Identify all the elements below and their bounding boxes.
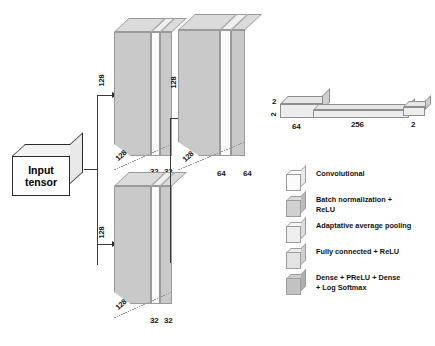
block-bottom-channels-label: 128 [97,227,106,239]
legend: Convolutional Batch normalization + ReLU… [286,168,434,298]
legend-swatch-side [301,191,306,213]
block-top-channels-label: 128 [97,75,106,87]
block-merged-back-face [178,30,220,156]
input-tensor-label: Input tensor [12,156,70,196]
block-bottom-back-face [114,186,151,304]
fc-64-width-label: 64 [292,122,301,131]
legend-label-convolutional: Convolutional [316,169,434,179]
legend-swatch-front [286,174,301,191]
fc-64-height-label: 2 [272,97,276,106]
block-merged-spatial-w-label: 64 [217,169,226,178]
input-tensor-box: Input tensor [12,144,84,196]
block-bottom-spatial-w-label: 32 [150,316,159,325]
diagram-canvas: Input tensor 128 128 32 32 [0,0,435,346]
block-merged-white-sheet [220,30,231,156]
fc-256-front-face [313,110,409,118]
legend-item-batchnorm: Batch normalization + ReLU [286,194,434,220]
legend-swatch-side [301,217,306,239]
fc-64-side-label: 2 [269,113,278,117]
wire-merge-from-bottom [170,262,171,263]
legend-swatch-batchnorm-icon [286,196,306,217]
fc-256-width-label: 256 [351,120,364,129]
legend-swatch-front [286,200,301,217]
wire-split-vertical [97,95,98,265]
wire-input-trunk [84,169,98,170]
block-bottom-spatial-h-label: 32 [164,316,173,325]
legend-swatch-front [286,252,301,269]
legend-item-dense-logsoftmax: Dense + PReLU + Dense + Log Softmax [286,272,434,298]
legend-swatch-adaptive-avg-pool-icon [286,222,306,243]
fc-2-front-face [403,107,425,116]
block-bottom-white-sheet [151,186,160,304]
legend-swatch-dense-logsoftmax-icon [286,274,306,295]
fc-layer-2 [403,101,435,123]
fc-2-side-face [425,95,431,110]
block-merged-front-face [231,30,245,156]
block-merged-spatial-h-label: 64 [243,169,252,178]
fc-2-width-label: 2 [411,120,415,129]
block-top-white-sheet [151,32,160,156]
block-merged-channels-label: 128 [169,77,178,89]
input-tensor-label-line2: tensor [25,176,57,188]
legend-swatch-convolutional-icon [286,170,306,191]
block-top-back-face [114,32,151,156]
conv-block-merged [178,14,266,169]
input-tensor-label-line1: Input [28,164,54,176]
legend-swatch-side [301,243,306,265]
wire-merge-vertical [170,118,171,263]
legend-item-convolutional: Convolutional [286,168,434,194]
input-tensor-side-face [70,132,83,184]
legend-item-adaptive-avg-pool: Adaptative average pooling [286,220,434,246]
legend-label-fully-connected: Fully connected + ReLU [316,247,434,257]
legend-swatch-side [301,269,306,291]
legend-swatch-side [301,165,306,187]
legend-label-adaptive-avg-pool: Adaptative average pooling [316,221,434,231]
legend-item-fully-connected: Fully connected + ReLU [286,246,434,272]
legend-swatch-front [286,226,301,243]
legend-swatch-front [286,278,301,295]
legend-label-batchnorm: Batch normalization + ReLU [316,195,434,214]
legend-label-dense-logsoftmax: Dense + PReLU + Dense + Log Softmax [316,273,434,292]
legend-swatch-fully-connected-icon [286,248,306,269]
conv-block-bottom-branch [114,172,190,317]
